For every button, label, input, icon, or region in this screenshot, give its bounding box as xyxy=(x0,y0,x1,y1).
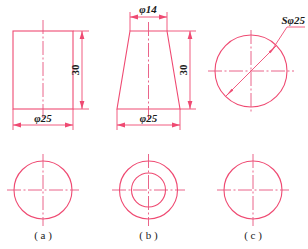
panel-a-caption: ( a ) xyxy=(34,229,52,242)
dim-c-sphere-diameter-label: Sφ25 xyxy=(281,14,305,26)
dim-a-dia-arrow-left xyxy=(13,123,21,128)
dim-b-height-arrow-bottom xyxy=(188,101,193,109)
panel-b-front-view xyxy=(117,22,180,120)
panel-b-bottom-diameter-dimension: φ25 xyxy=(117,109,180,130)
cylinder-top-circle xyxy=(14,161,72,219)
dim-a-dia-arrow-right xyxy=(65,123,73,128)
sphere-top-circle xyxy=(224,161,282,219)
dim-b-bot-arrow-right xyxy=(172,123,180,128)
cone-top-outer-circle xyxy=(120,161,178,219)
panel-a-top-view xyxy=(7,154,79,226)
dim-c-arrow-lower-left xyxy=(226,89,233,96)
panel-c: Sφ25 ( c ) xyxy=(208,14,305,242)
dim-b-height-arrow-top xyxy=(188,31,193,39)
panel-b-top-view xyxy=(112,154,185,226)
panel-c-sphere-diameter-dimension: Sφ25 xyxy=(226,14,305,96)
technical-drawing-canvas: 30 φ25 ( a ) xyxy=(0,0,308,249)
panel-a-diameter-dimension: φ25 xyxy=(13,109,73,130)
panel-a: 30 φ25 ( a ) xyxy=(7,20,89,242)
panel-c-caption: ( c ) xyxy=(244,229,262,242)
dim-a-height-arrow-bottom xyxy=(80,101,85,109)
dim-a-diameter-label: φ25 xyxy=(34,112,52,124)
drawing-sheet: 30 φ25 ( a ) xyxy=(0,0,308,249)
panel-b-caption: ( b ) xyxy=(139,229,158,242)
dim-b-height-label: 30 xyxy=(177,64,189,76)
dim-a-height-arrow-top xyxy=(80,31,85,39)
dim-a-height-label: 30 xyxy=(69,64,81,76)
panel-c-top-view xyxy=(217,154,289,226)
dim-b-bot-arrow-left xyxy=(117,123,125,128)
dim-b-bottom-diameter-label: φ25 xyxy=(140,112,158,124)
panel-a-height-dimension: 30 xyxy=(69,31,89,109)
panel-b: φ14 30 φ25 xyxy=(112,3,196,242)
dim-c-leader-line xyxy=(272,27,287,50)
panel-a-front-view xyxy=(13,20,73,120)
panel-b-height-dimension: 30 xyxy=(167,31,196,109)
dim-b-top-arrow-right xyxy=(159,15,167,20)
dim-b-top-arrow-left xyxy=(130,15,138,20)
dim-b-top-diameter-label: φ14 xyxy=(139,3,157,15)
